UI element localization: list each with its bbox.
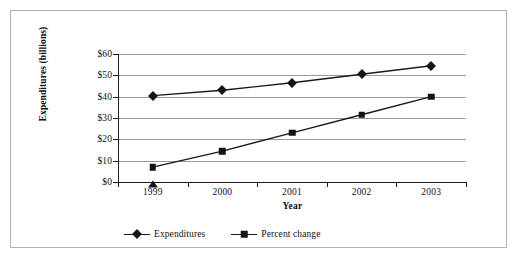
x-axis-tick: [257, 182, 258, 187]
data-point-square: [289, 130, 296, 137]
x-axis-line: [118, 182, 467, 183]
x-axis-tick: [327, 182, 328, 187]
y-axis-tick-label: $60: [70, 49, 112, 59]
data-point-square: [219, 148, 226, 155]
legend-item-2[interactable]: Percent change: [231, 229, 320, 239]
y-axis-tick-label: $40: [70, 92, 112, 102]
y-axis-tick-label: $20: [70, 134, 112, 144]
plot-area: [118, 54, 466, 182]
x-axis-tick-label: 2001: [262, 187, 322, 197]
data-point-square: [428, 93, 435, 100]
chart-figure: $0$10$20$30$40$50$60 1999200020012002200…: [10, 10, 507, 248]
x-axis-title: Year: [118, 201, 467, 211]
y-axis-tick-label: $30: [70, 113, 112, 123]
y-axis-tick-label: $50: [70, 70, 112, 80]
data-point-triangle: [148, 181, 158, 188]
x-axis-tick: [396, 182, 397, 187]
y-axis-title: Expenditures (billions): [38, 4, 48, 144]
legend-marker-square-icon: [231, 229, 257, 239]
legend-label: Percent change: [261, 229, 320, 239]
legend-marker-diamond-icon: [124, 229, 150, 239]
x-axis-tick-label: 2003: [401, 187, 461, 197]
y-axis-tick-label: $0: [70, 177, 112, 187]
x-axis-tick: [118, 182, 119, 187]
chart-legend: ExpendituresPercent change: [118, 229, 467, 239]
x-axis-tick-label: 2002: [332, 187, 392, 197]
data-point-square: [358, 112, 365, 119]
y-axis-tick-label: $10: [70, 156, 112, 166]
x-axis-tick-label: 1999: [123, 187, 183, 197]
legend-item-1[interactable]: Expenditures: [124, 229, 205, 239]
y-axis-tick-labels: $0$10$20$30$40$50$60: [67, 11, 112, 249]
series-lines: [118, 54, 466, 182]
x-axis-tick: [466, 182, 467, 187]
x-axis-tick: [188, 182, 189, 187]
data-point-square: [150, 164, 157, 171]
legend-label: Expenditures: [154, 229, 205, 239]
x-axis-tick-label: 2000: [192, 187, 252, 197]
